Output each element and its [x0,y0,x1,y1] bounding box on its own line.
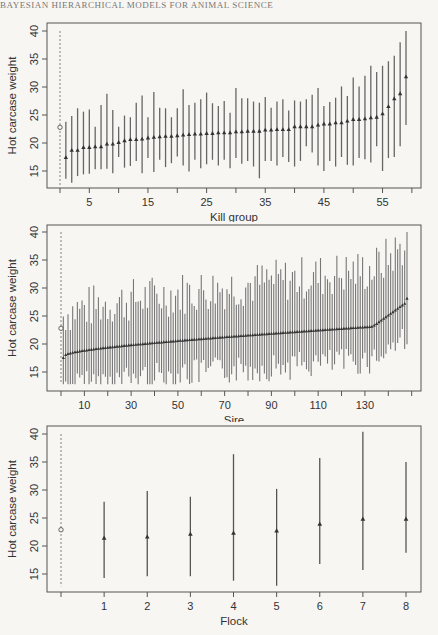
mean-triangle-marker [158,134,162,138]
y-axis-label: Hot carcase weight [6,459,18,558]
mean-triangle-marker [310,124,314,128]
flock-chart: 152025303540Hot carcase weightFlock12345… [0,418,438,635]
mean-triangle-marker [116,140,120,144]
mean-triangle-marker [274,528,279,532]
x-tick-label: 8 [403,600,409,612]
y-tick-label: 40 [28,428,40,440]
y-tick-label: 35 [28,456,40,468]
x-tick-label: 35 [259,196,271,208]
x-tick-label: 2 [144,600,150,612]
reference-circle-marker [59,326,63,330]
y-tick-label: 30 [28,282,40,294]
x-tick-label: 7 [360,600,366,612]
mean-triangle-marker [396,307,399,310]
mean-triangle-marker [377,320,380,323]
mean-triangle-marker [199,132,203,136]
y-tick-label: 30 [28,484,40,496]
mean-triangle-marker [188,532,193,536]
mean-triangle-marker [146,136,150,140]
mean-triangle-marker [404,75,408,79]
mean-triangle-marker [363,117,367,121]
x-tick-label: 110 [309,399,327,411]
mean-triangle-marker [275,127,279,131]
mean-triangle-marker [122,138,126,142]
mean-triangle-marker [134,137,138,141]
mean-triangle-marker [210,131,214,135]
y-tick-label: 30 [28,81,40,93]
mean-triangle-marker [345,119,349,123]
x-tick-label: 90 [265,399,277,411]
sire-chart: 152025303540Hot carcase weightSire103050… [0,218,438,422]
x-tick-label: 3 [187,600,193,612]
mean-triangle-marker [281,127,285,131]
page-header: BAYESIAN HIERARCHICAL MODELS FOR ANIMAL … [0,0,438,8]
mean-triangle-marker [392,96,396,100]
mean-triangle-marker [228,131,232,135]
mean-triangle-marker [234,129,238,133]
y-axis-label: Hot carcase weight [6,258,18,357]
mean-triangle-marker [152,135,156,139]
mean-triangle-marker [70,148,74,152]
mean-triangle-marker [369,115,373,119]
mean-triangle-marker [81,145,85,149]
mean-triangle-marker [384,315,387,318]
x-tick-label: 45 [318,196,330,208]
kill-group-panel: 152025303540Hot carcase weightKill group… [0,14,438,222]
mean-triangle-marker [405,297,408,300]
mean-triangle-marker [403,302,406,305]
reference-circle-marker [59,528,63,532]
mean-triangle-marker [263,128,267,132]
mean-triangle-marker [99,145,103,149]
x-tick-label: 5 [86,196,92,208]
x-tick-label: 130 [356,399,374,411]
mean-triangle-marker [71,351,74,354]
mean-triangle-marker [382,317,385,320]
mean-triangle-marker [333,120,337,124]
mean-triangle-marker [69,352,72,355]
mean-triangle-marker [292,124,296,128]
mean-triangle-marker [181,133,185,137]
flock-panel: 152025303540Hot carcase weightFlock12345… [0,418,438,635]
y-axis-label: Hot carcase weight [6,56,18,155]
mean-triangle-marker [140,137,144,141]
mean-triangle-marker [380,111,384,115]
mean-triangle-marker [287,127,291,131]
x-tick-label: 10 [78,399,90,411]
y-tick-label: 25 [28,109,40,121]
y-tick-label: 25 [28,512,40,524]
mean-triangle-marker [145,534,150,538]
mean-triangle-marker [251,129,255,133]
mean-triangle-marker [357,117,361,121]
mean-triangle-marker [351,117,355,121]
mean-triangle-marker [298,124,302,128]
mean-triangle-marker [193,132,197,136]
mean-triangle-marker [398,305,401,308]
mean-triangle-marker [401,304,404,307]
mean-triangle-marker [380,319,383,322]
mean-triangle-marker [391,310,394,313]
mean-triangle-marker [322,122,326,126]
mean-triangle-marker [93,145,97,149]
mean-triangle-marker [387,314,390,317]
mean-triangle-marker [269,128,273,132]
kill-group-chart: 152025303540Hot carcase weightKill group… [0,14,438,222]
mean-triangle-marker [389,312,392,315]
x-axis-label: Flock [220,615,248,627]
x-tick-label: 1 [101,600,107,612]
mean-triangle-marker [169,134,173,138]
mean-triangle-marker [102,536,107,540]
x-tick-label: 6 [317,600,323,612]
mean-triangle-marker [394,309,397,312]
mean-triangle-marker [64,155,68,159]
y-tick-label: 20 [28,137,40,149]
y-tick-label: 25 [28,310,40,322]
y-tick-label: 15 [28,165,40,177]
mean-triangle-marker [75,148,79,152]
mean-triangle-marker [375,115,379,119]
mean-triangle-marker [111,142,115,146]
y-tick-label: 40 [28,25,40,37]
mean-triangle-marker [204,131,208,135]
y-tick-label: 20 [28,338,40,350]
y-tick-label: 20 [28,540,40,552]
mean-triangle-marker [240,129,244,133]
